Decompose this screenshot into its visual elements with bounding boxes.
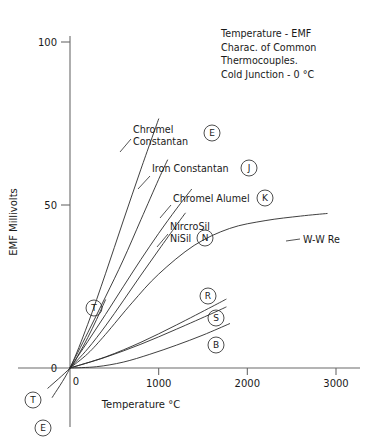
- x-axis-ticks: 0100020003000: [73, 368, 349, 389]
- leader-K: [160, 205, 171, 218]
- series-curve-K: [70, 189, 191, 368]
- badge-E-below-origin: E: [35, 420, 51, 436]
- chart-title-block: Temperature - EMFCharac. of CommonThermo…: [220, 28, 316, 80]
- badge-E: E: [204, 125, 220, 141]
- y-tick-label: 100: [38, 37, 57, 48]
- series-label-line: Constantan: [133, 136, 188, 147]
- label-chromel-alumel: Chromel Alumel: [173, 193, 250, 204]
- x-tick-label: 1000: [146, 378, 171, 389]
- badge-J: J: [241, 160, 257, 176]
- series-label-line: W-W Re: [303, 234, 340, 245]
- badge-B: B: [208, 337, 224, 353]
- chart-title-line: Charac. of Common: [221, 42, 316, 53]
- chart-title-line: Cold Junction - 0 °C: [221, 69, 315, 80]
- badge-K: K: [257, 190, 273, 206]
- badge-letter: B: [213, 340, 219, 350]
- series-label-line: Chromel Alumel: [173, 193, 250, 204]
- y-axis-title: EMF Millivolts: [8, 188, 19, 256]
- series-curve-E: [52, 119, 158, 397]
- label-w-w-re: W-W Re: [303, 234, 340, 245]
- x-tick-label: 3000: [323, 378, 348, 389]
- badge-S: S: [208, 310, 224, 326]
- y-tick-label: 50: [44, 200, 57, 211]
- badge-N: N: [197, 230, 213, 246]
- thermocouple-emf-chart: 0501000100020003000Temperature °CEMF Mil…: [0, 0, 375, 447]
- badge-letter: J: [247, 163, 251, 173]
- badge-letter: R: [205, 291, 211, 301]
- badge-letter: S: [213, 313, 219, 323]
- chart-title-line: Thermocouples.: [220, 55, 298, 66]
- badge-letter: N: [202, 233, 209, 243]
- label-chromel-constantan: ChromelConstantan: [133, 124, 188, 147]
- annotations: ChromelConstantanEIron ConstantanJChrome…: [25, 124, 340, 436]
- badge-letter: E: [209, 128, 215, 138]
- badge-letter: K: [262, 193, 269, 203]
- badge-T-below-origin: T: [25, 392, 41, 408]
- badge-R: R: [200, 288, 216, 304]
- chart-title-line: Temperature - EMF: [220, 28, 311, 39]
- curves: [48, 119, 327, 397]
- badge-letter: T: [90, 303, 97, 313]
- chart-canvas: 0501000100020003000Temperature °CEMF Mil…: [0, 0, 375, 447]
- leader-w-w-re: [286, 239, 300, 241]
- series-label-line: Iron Constantan: [152, 163, 229, 174]
- leader-E: [120, 139, 131, 152]
- series-label-line: NiSil: [170, 233, 191, 244]
- badge-letter: E: [40, 423, 46, 433]
- x-axis-title: Temperature °C: [101, 399, 181, 410]
- series-label-line: Chromel: [133, 124, 173, 135]
- series-curve-N: [70, 213, 185, 368]
- y-axis-ticks: 050100: [38, 37, 70, 374]
- leader-J: [138, 176, 150, 189]
- label-iron-constantan: Iron Constantan: [152, 163, 229, 174]
- x-tick-label: 2000: [235, 378, 260, 389]
- y-tick-label: 0: [51, 363, 57, 374]
- x-tick-label: 0: [73, 376, 79, 387]
- badge-letter: T: [29, 395, 36, 405]
